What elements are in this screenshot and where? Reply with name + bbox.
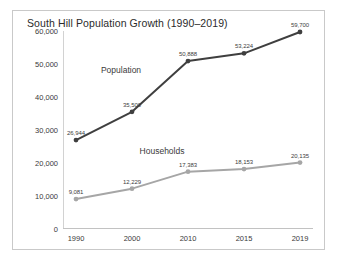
x-tick-label: 2019 bbox=[292, 234, 309, 243]
data-point-marker bbox=[298, 160, 303, 165]
data-point-label: 9,081 bbox=[69, 189, 84, 195]
y-tick-label: 60,000 bbox=[35, 27, 58, 36]
y-tick-label: 0 bbox=[54, 225, 58, 234]
data-point-label: 59,700 bbox=[291, 22, 309, 28]
data-point-label: 26,944 bbox=[67, 130, 85, 136]
y-tick-label: 20,000 bbox=[35, 159, 58, 168]
data-point-marker bbox=[186, 169, 191, 174]
series-label-households: Households bbox=[140, 146, 185, 156]
data-point-marker bbox=[130, 109, 135, 114]
series-line bbox=[76, 32, 300, 140]
y-tick-label: 10,000 bbox=[35, 192, 58, 201]
data-point-label: 18,153 bbox=[235, 159, 253, 165]
x-tick-label: 1990 bbox=[68, 234, 85, 243]
series-lines bbox=[63, 31, 313, 229]
data-point-label: 12,229 bbox=[123, 179, 141, 185]
data-point-marker bbox=[130, 186, 135, 191]
data-point-label: 50,888 bbox=[179, 51, 197, 57]
data-point-marker bbox=[242, 167, 247, 172]
chart-frame: South Hill Population Growth (1990–2019)… bbox=[12, 10, 325, 250]
plot-area: 010,00020,00030,00040,00050,00060,000 19… bbox=[63, 31, 313, 229]
data-point-marker bbox=[74, 197, 79, 202]
series-line bbox=[76, 163, 300, 199]
x-tick-label: 2010 bbox=[180, 234, 197, 243]
x-tick-label: 2000 bbox=[124, 234, 141, 243]
data-point-marker bbox=[242, 51, 247, 56]
x-tick-label: 2015 bbox=[236, 234, 253, 243]
data-point-label: 17,383 bbox=[179, 162, 197, 168]
data-point-label: 53,224 bbox=[235, 43, 253, 49]
y-tick-label: 30,000 bbox=[35, 126, 58, 135]
y-tick-label: 50,000 bbox=[35, 60, 58, 69]
data-point-label: 35,500 bbox=[123, 102, 141, 108]
series-label-population: Population bbox=[101, 65, 141, 75]
data-point-marker bbox=[186, 59, 191, 64]
data-point-marker bbox=[298, 30, 303, 35]
data-point-marker bbox=[74, 138, 79, 143]
y-tick-label: 40,000 bbox=[35, 93, 58, 102]
data-point-label: 20,135 bbox=[291, 153, 309, 159]
